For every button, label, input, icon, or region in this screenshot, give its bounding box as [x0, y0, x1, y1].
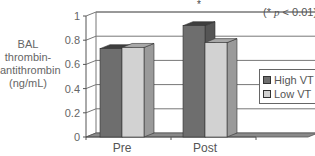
y-axis-label: BAL thrombin- antithrombin (ng/mL)	[0, 38, 56, 90]
bar-post-high-vt	[183, 26, 205, 137]
y-tick-label: 0.6	[65, 58, 80, 70]
x-tick-label: Post	[193, 141, 218, 155]
legend-item-high-vt: High VT	[263, 74, 314, 86]
x-tick-label: Pre	[113, 141, 132, 155]
bar-side	[227, 39, 237, 137]
y-tick-label: 0.8	[65, 34, 80, 46]
legend: High VT Low VT	[259, 69, 315, 104]
y-tick-label: 0.2	[65, 107, 80, 119]
legend-item-low-vt: Low VT	[263, 88, 311, 100]
legend-swatch	[263, 76, 271, 84]
y-axis-label-line: BAL	[0, 38, 56, 51]
side-wall-line	[86, 109, 96, 113]
bar-post-low-vt	[205, 43, 227, 137]
y-tick-label: 0	[74, 131, 80, 143]
side-wall-line	[86, 36, 96, 40]
bar-side	[144, 43, 154, 137]
y-axis-label-line: thrombin-	[0, 51, 56, 64]
significance-note: (* p < 0.01)	[263, 6, 315, 18]
legend-swatch	[263, 90, 271, 98]
y-axis-label-line: (ng/mL)	[0, 77, 56, 90]
significance-asterisk: *	[197, 0, 201, 10]
bar-pre-high-vt	[100, 49, 122, 137]
side-wall-line	[86, 85, 96, 89]
side-wall-line	[86, 60, 96, 64]
bar-pre-low-vt	[122, 47, 144, 137]
y-tick-label: 1	[74, 10, 80, 22]
y-tick-label: 0.4	[65, 83, 80, 95]
side-wall-line	[86, 12, 96, 16]
y-axis-label-line: antithrombin	[0, 64, 56, 77]
